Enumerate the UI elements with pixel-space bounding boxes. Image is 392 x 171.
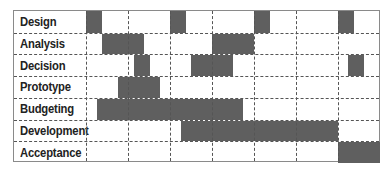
gantt-bar	[338, 142, 380, 163]
grid-line	[254, 11, 255, 161]
gantt-bar	[134, 55, 150, 76]
gantt-row: Budgeting	[14, 98, 379, 120]
gantt-bar	[86, 11, 102, 33]
grid-line	[338, 11, 339, 161]
gantt-row: Design	[14, 11, 379, 33]
gantt-bar	[181, 121, 338, 142]
gantt-row: Prototype	[14, 76, 379, 98]
gantt-bar	[254, 11, 270, 33]
grid-line	[296, 11, 297, 161]
gantt-row: Acceptance	[14, 141, 379, 163]
row-label: Decision	[20, 55, 65, 76]
gantt-chart: DesignAnalysisDecisionPrototypeBudgeting…	[13, 10, 380, 162]
gantt-row: Analysis	[14, 33, 379, 55]
grid-line	[128, 11, 129, 161]
grid-line	[86, 11, 87, 161]
gantt-bar	[348, 55, 364, 76]
gantt-bar	[212, 34, 254, 55]
gantt-bar	[118, 77, 160, 98]
row-label: Prototype	[20, 77, 71, 98]
gantt-row: Development	[14, 120, 379, 142]
row-label: Design	[20, 11, 56, 33]
row-label: Analysis	[20, 34, 65, 55]
row-label: Budgeting	[20, 99, 74, 120]
gantt-bar	[170, 11, 186, 33]
gantt-bar	[338, 11, 354, 33]
grid-line	[170, 11, 171, 161]
row-label: Development	[20, 121, 89, 142]
grid-line	[212, 11, 213, 161]
gantt-row: Decision	[14, 54, 379, 76]
gantt-bar	[102, 34, 144, 55]
row-label: Acceptance	[20, 142, 81, 163]
